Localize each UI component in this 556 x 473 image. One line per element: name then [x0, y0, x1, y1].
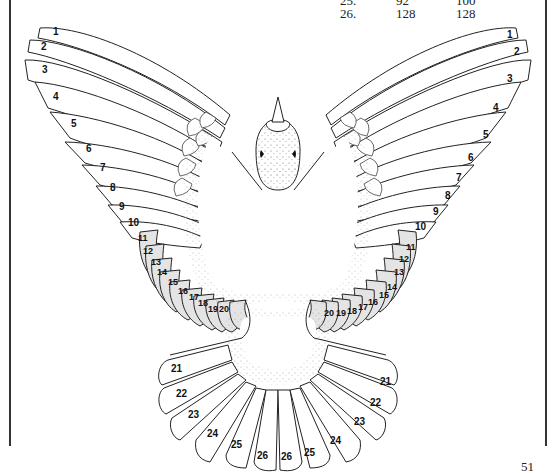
- svg-text:1: 1: [53, 26, 59, 37]
- svg-text:13: 13: [394, 267, 404, 277]
- svg-text:4: 4: [53, 91, 59, 102]
- svg-text:23: 23: [188, 409, 200, 420]
- svg-text:2: 2: [41, 41, 47, 52]
- svg-text:18: 18: [347, 306, 357, 316]
- svg-text:13: 13: [151, 257, 161, 267]
- svg-text:7: 7: [456, 172, 462, 183]
- svg-text:1: 1: [507, 29, 513, 40]
- svg-text:5: 5: [71, 118, 77, 129]
- svg-text:11: 11: [406, 242, 416, 252]
- svg-text:19: 19: [336, 308, 346, 318]
- svg-text:25: 25: [304, 447, 316, 458]
- svg-text:14: 14: [157, 267, 167, 277]
- svg-text:22: 22: [176, 388, 188, 399]
- svg-text:24: 24: [330, 435, 342, 446]
- svg-text:4: 4: [493, 102, 499, 113]
- svg-text:9: 9: [433, 206, 439, 217]
- svg-text:12: 12: [399, 254, 409, 264]
- svg-text:24: 24: [207, 428, 219, 439]
- svg-text:19: 19: [208, 304, 218, 314]
- svg-text:21: 21: [171, 363, 183, 374]
- svg-text:22: 22: [370, 397, 382, 408]
- svg-text:16: 16: [178, 286, 188, 296]
- page-number: 51: [521, 459, 534, 473]
- svg-text:7: 7: [100, 162, 106, 173]
- svg-text:2: 2: [514, 46, 520, 57]
- svg-text:26: 26: [281, 451, 293, 462]
- svg-text:10: 10: [128, 217, 140, 228]
- svg-text:10: 10: [415, 221, 427, 232]
- svg-text:23: 23: [354, 416, 366, 427]
- svg-text:9: 9: [119, 201, 125, 212]
- bird-feather-diagram: 1 2 3 4 5 6 7 8 9 10 11 12 13 14 15 16 1…: [0, 0, 556, 473]
- svg-text:25: 25: [231, 439, 243, 450]
- svg-text:8: 8: [110, 182, 116, 193]
- svg-text:21: 21: [380, 376, 392, 387]
- svg-text:17: 17: [358, 302, 368, 312]
- svg-text:12: 12: [143, 246, 153, 256]
- svg-text:20: 20: [324, 308, 334, 318]
- svg-text:3: 3: [507, 73, 513, 84]
- svg-text:6: 6: [468, 152, 474, 163]
- svg-text:18: 18: [198, 298, 208, 308]
- svg-text:3: 3: [42, 64, 48, 75]
- svg-text:11: 11: [138, 233, 148, 243]
- svg-text:6: 6: [86, 143, 92, 154]
- svg-text:20: 20: [219, 304, 229, 314]
- svg-text:15: 15: [168, 277, 178, 287]
- svg-text:16: 16: [368, 297, 378, 307]
- svg-text:26: 26: [257, 450, 269, 461]
- svg-text:15: 15: [379, 290, 389, 300]
- svg-text:5: 5: [483, 129, 489, 140]
- svg-text:8: 8: [445, 190, 451, 201]
